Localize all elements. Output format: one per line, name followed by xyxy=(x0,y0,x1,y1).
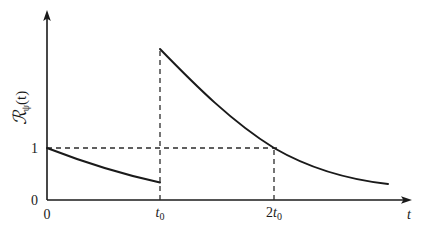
chart-figure: ℛψ(t) xyxy=(0,0,428,232)
y-tick-label-one: 1 xyxy=(31,141,38,156)
guide-lines xyxy=(47,49,277,200)
x-tick-label-zero: 0 xyxy=(44,207,51,222)
x-axis-name: t xyxy=(407,207,412,222)
chart-svg: ℛψ(t) xyxy=(0,0,428,232)
tick-labels: 0 1 0 t0 2t0 t xyxy=(31,141,412,222)
axes xyxy=(43,10,412,204)
x-tick-label-t0: t0 xyxy=(156,205,165,222)
curve-path-before-t0 xyxy=(47,148,160,183)
x-tick-label-2t0: 2t0 xyxy=(266,205,282,222)
y-tick-label-zero: 0 xyxy=(31,193,38,208)
y-axis-label: ℛψ(t) xyxy=(10,91,31,125)
svg-text:ℛψ(t): ℛψ(t) xyxy=(10,91,31,125)
y-axis-label-arg: (t) xyxy=(13,91,30,105)
curve-segment-1 xyxy=(47,148,160,183)
